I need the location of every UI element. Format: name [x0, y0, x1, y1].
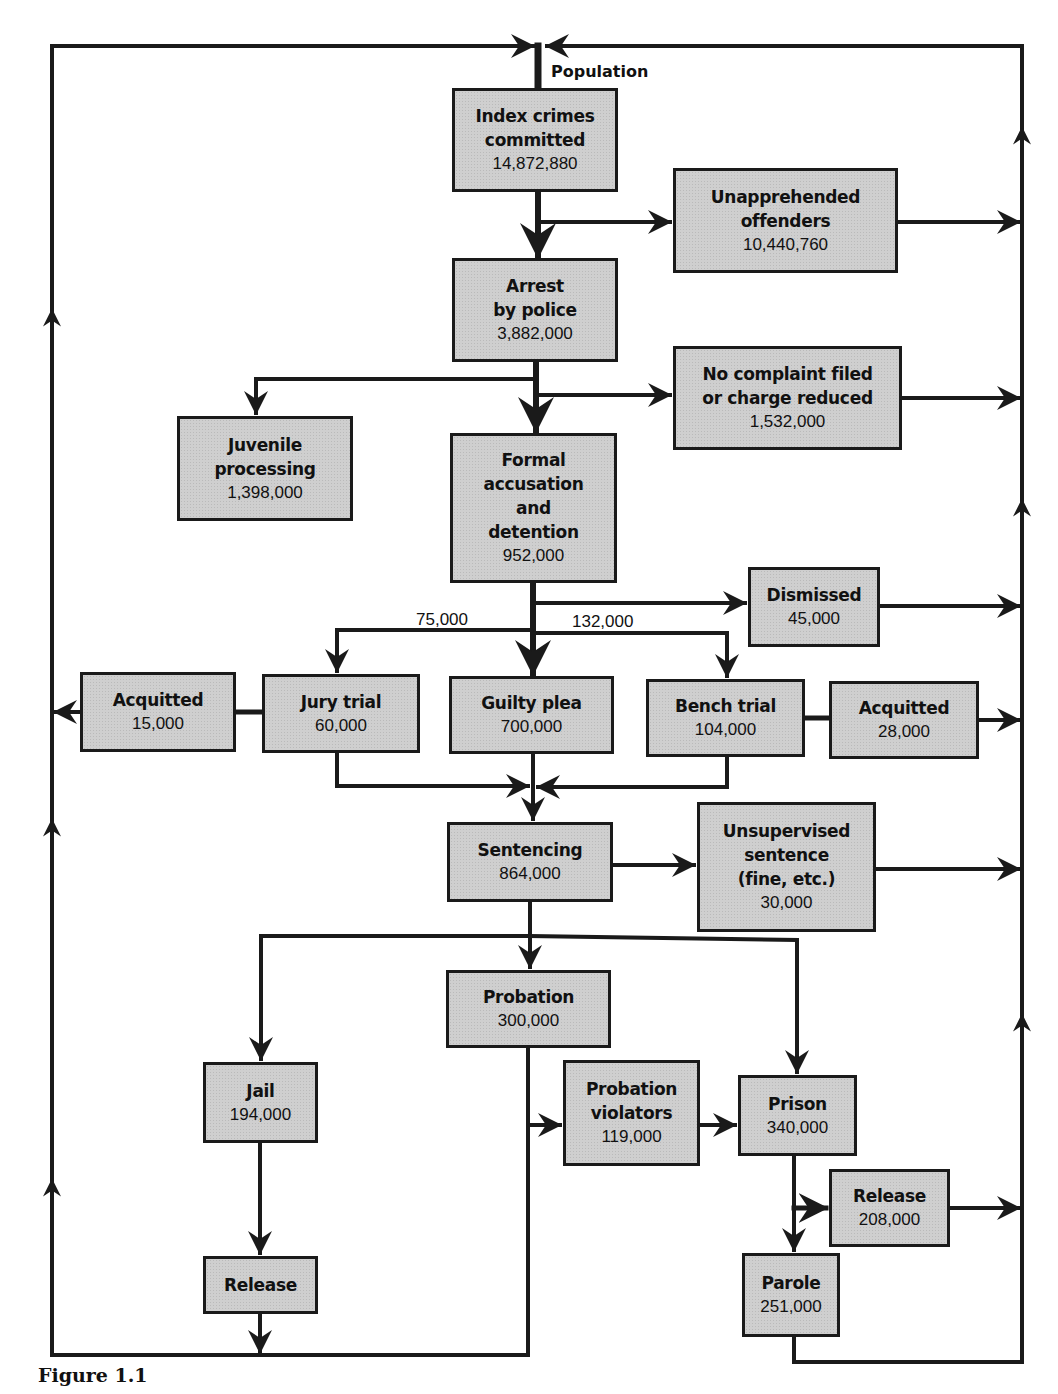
node-value: 30,000 — [761, 891, 813, 915]
edge-label-jury: 75,000 — [416, 610, 468, 630]
node-title: Unsupervised sentence (fine, etc.) — [723, 819, 850, 891]
node-probation: Probation 300,000 — [446, 970, 611, 1048]
node-title: Release — [224, 1273, 297, 1297]
node-value: 104,000 — [695, 718, 756, 742]
node-value: 700,000 — [501, 715, 562, 739]
node-index-crimes: Index crimes committed 14,872,880 — [452, 88, 618, 192]
node-title: No complaint filed or charge reduced — [702, 362, 873, 410]
node-value: 208,000 — [859, 1208, 920, 1232]
node-value: 119,000 — [601, 1125, 661, 1149]
node-juvenile: Juvenile processing 1,398,000 — [177, 416, 353, 521]
node-title: Jury trial — [301, 690, 381, 714]
node-title: Dismissed — [767, 583, 862, 607]
node-title: Arrest by police — [493, 274, 577, 322]
node-value: 952,000 — [503, 544, 564, 568]
node-value: 1,398,000 — [227, 481, 303, 505]
node-sentencing: Sentencing 864,000 — [447, 822, 613, 902]
node-parole: Parole 251,000 — [742, 1253, 840, 1337]
node-unapprehended: Unapprehended offenders 10,440,760 — [673, 168, 898, 273]
population-label: Population — [551, 62, 648, 81]
node-no-complaint: No complaint filed or charge reduced 1,5… — [673, 346, 902, 450]
node-dismissed: Dismissed 45,000 — [748, 567, 880, 647]
node-title: Acquitted — [859, 696, 950, 720]
node-arrest: Arrest by police 3,882,000 — [452, 258, 618, 362]
node-value: 10,440,760 — [743, 233, 828, 257]
node-title: Juvenile processing — [214, 433, 315, 481]
node-value: 340,000 — [767, 1116, 828, 1140]
node-value: 3,882,000 — [497, 322, 573, 346]
edge-label-bench: 132,000 — [572, 612, 633, 632]
node-value: 28,000 — [878, 720, 930, 744]
node-formal-accusation: Formal accusation and detention 952,000 — [450, 433, 617, 583]
node-value: 864,000 — [499, 862, 560, 886]
node-release-prison: Release 208,000 — [829, 1169, 950, 1247]
node-value: 60,000 — [315, 714, 367, 738]
node-title: Parole — [761, 1271, 820, 1295]
node-probation-violators: Probation violators 119,000 — [563, 1060, 700, 1166]
node-bench-trial: Bench trial 104,000 — [646, 679, 805, 757]
node-unsupervised: Unsupervised sentence (fine, etc.) 30,00… — [697, 802, 876, 932]
node-value: 251,000 — [760, 1295, 821, 1319]
node-prison: Prison 340,000 — [738, 1075, 857, 1156]
node-title: Probation — [483, 985, 574, 1009]
node-value: 15,000 — [132, 712, 184, 736]
node-value: 300,000 — [498, 1009, 559, 1033]
node-value: 45,000 — [788, 607, 840, 631]
node-value: 14,872,880 — [492, 152, 577, 176]
node-title: Jail — [246, 1079, 274, 1103]
node-title: Guilty plea — [481, 691, 582, 715]
node-release-jail: Release — [203, 1256, 318, 1314]
node-title: Bench trial — [675, 694, 776, 718]
node-value: 194,000 — [230, 1103, 291, 1127]
node-title: Sentencing — [478, 838, 583, 862]
node-title: Index crimes committed — [475, 104, 594, 152]
node-acquitted-bench: Acquitted 28,000 — [829, 681, 979, 759]
node-title: Probation violators — [586, 1077, 677, 1125]
node-title: Prison — [768, 1092, 827, 1116]
node-jury-trial: Jury trial 60,000 — [262, 674, 420, 753]
node-title: Formal accusation and detention — [483, 448, 583, 544]
node-title: Unapprehended offenders — [711, 185, 860, 233]
node-value: 1,532,000 — [750, 410, 826, 434]
figure-caption: Figure 1.1 — [38, 1364, 148, 1386]
node-jail: Jail 194,000 — [203, 1062, 318, 1143]
node-acquitted-jury: Acquitted 15,000 — [80, 672, 236, 752]
node-title: Acquitted — [113, 688, 204, 712]
node-title: Release — [853, 1184, 926, 1208]
node-guilty-plea: Guilty plea 700,000 — [449, 676, 614, 754]
